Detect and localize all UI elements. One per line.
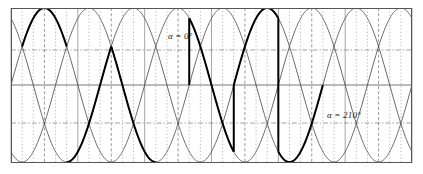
alpha-210-label: α = 210° xyxy=(327,110,361,120)
alpha-0-label: α = 0° xyxy=(168,31,193,41)
waveform-figure: α = 0° α = 210° xyxy=(0,0,423,174)
waveform-plot xyxy=(0,0,423,174)
